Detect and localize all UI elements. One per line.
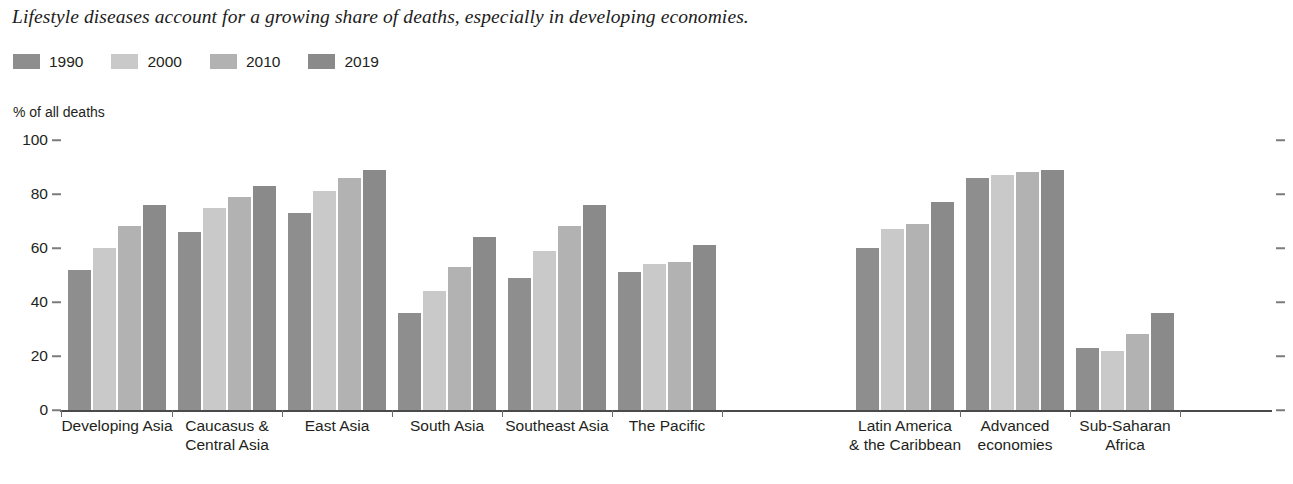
y-axis-tick-mark-left-0 [52, 409, 61, 411]
bar-1990[interactable] [856, 248, 879, 410]
bar-1990[interactable] [508, 278, 531, 410]
bar-1990[interactable] [398, 313, 421, 410]
bar-2019[interactable] [363, 170, 386, 410]
plot-area: 020406080100Developing AsiaCaucasus &Cen… [0, 0, 1293, 484]
x-axis-tick-mark [722, 410, 723, 417]
bar-1990[interactable] [288, 213, 311, 410]
y-axis-tick-mark-right-40 [1276, 301, 1285, 303]
bar-group: Caucasus &Central Asia [178, 140, 288, 410]
y-axis-tick-mark-right-60 [1276, 247, 1285, 249]
bar-1990[interactable] [68, 270, 91, 410]
y-axis-tick-label-40: 40 [8, 293, 48, 311]
bar-2000[interactable] [643, 264, 666, 410]
bar-2019[interactable] [693, 245, 716, 410]
bar-2010[interactable] [228, 197, 251, 410]
bar-1990[interactable] [618, 272, 641, 410]
bar-1990[interactable] [966, 178, 989, 410]
bar-group: South Asia [398, 140, 508, 410]
bar-2000[interactable] [991, 175, 1014, 410]
bar-2019[interactable] [1041, 170, 1064, 410]
x-axis-category-line: Africa [1105, 436, 1145, 453]
y-axis-tick-mark-left-60 [52, 247, 61, 249]
bar-2010[interactable] [118, 226, 141, 410]
y-axis-tick-mark-right-80 [1276, 193, 1285, 195]
bar-group: Developing Asia [68, 140, 178, 410]
y-axis-tick-mark-left-40 [52, 301, 61, 303]
bar-1990[interactable] [178, 232, 201, 410]
bar-2010[interactable] [338, 178, 361, 410]
bar-2000[interactable] [881, 229, 904, 410]
bar-2019[interactable] [931, 202, 954, 410]
y-axis-tick-label-80: 80 [8, 185, 48, 203]
bar-2000[interactable] [93, 248, 116, 410]
bar-1990[interactable] [1076, 348, 1099, 410]
bar-2019[interactable] [143, 205, 166, 410]
y-axis-tick-label-20: 20 [8, 347, 48, 365]
bar-2019[interactable] [253, 186, 276, 410]
y-axis-tick-mark-left-100 [52, 139, 61, 141]
y-axis-tick-label-100: 100 [8, 131, 48, 149]
x-axis-category-line: Sub-Saharan [1079, 417, 1170, 434]
y-axis-tick-mark-right-20 [1276, 355, 1285, 357]
x-axis-category-label: The Pacific [572, 416, 762, 435]
x-axis-tick-mark [1180, 410, 1181, 417]
x-axis-tick-mark [61, 410, 62, 417]
bar-2000[interactable] [533, 251, 556, 410]
bar-2010[interactable] [448, 267, 471, 410]
x-axis-category-line: The Pacific [629, 417, 706, 434]
bar-2010[interactable] [906, 224, 929, 410]
bar-2000[interactable] [203, 208, 226, 411]
bar-2010[interactable] [1016, 172, 1039, 410]
bar-2010[interactable] [668, 262, 691, 411]
bar-2000[interactable] [313, 191, 336, 410]
bar-2010[interactable] [1126, 334, 1149, 410]
bar-2010[interactable] [558, 226, 581, 410]
bar-2019[interactable] [473, 237, 496, 410]
bar-group: Advancedeconomies [966, 140, 1076, 410]
x-axis-line [60, 410, 1272, 412]
bar-2000[interactable] [423, 291, 446, 410]
bar-2019[interactable] [1151, 313, 1174, 410]
bar-group: Latin America& the Caribbean [856, 140, 966, 410]
bar-group: The Pacific [618, 140, 728, 410]
y-axis-tick-mark-left-80 [52, 193, 61, 195]
y-axis-tick-mark-left-20 [52, 355, 61, 357]
x-axis-category-label: Sub-SaharanAfrica [1030, 416, 1220, 454]
bar-group: East Asia [288, 140, 398, 410]
y-axis-tick-mark-right-0 [1276, 409, 1285, 411]
x-axis-category-line: Central Asia [185, 436, 269, 453]
bar-group: Southeast Asia [508, 140, 618, 410]
y-axis-tick-mark-right-100 [1276, 139, 1285, 141]
bar-2000[interactable] [1101, 351, 1124, 410]
bar-group: Sub-SaharanAfrica [1076, 140, 1186, 410]
bar-2019[interactable] [583, 205, 606, 410]
y-axis-tick-label-60: 60 [8, 239, 48, 257]
